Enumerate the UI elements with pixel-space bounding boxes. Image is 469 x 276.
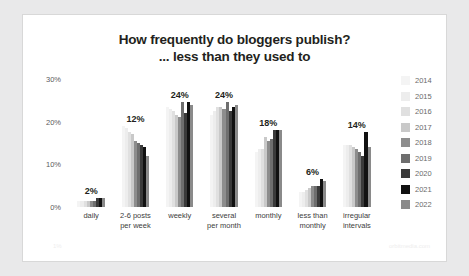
x-axis-category-label: irregularintervals xyxy=(320,211,394,230)
title-line-2: ... less than they used to xyxy=(23,48,446,65)
category-label-line: per week xyxy=(98,221,172,231)
legend-label: 2022 xyxy=(415,200,432,209)
bar-value-label: 24% xyxy=(194,90,254,100)
y-axis-tick: 30% xyxy=(46,75,61,84)
bar-group xyxy=(255,79,282,207)
legend-item[interactable]: 2021 xyxy=(401,182,449,198)
bar-group xyxy=(122,79,149,207)
legend-label: 2019 xyxy=(415,154,432,163)
bar[interactable] xyxy=(368,147,371,207)
legend-swatch-icon xyxy=(401,76,410,85)
bar-value-label: 14% xyxy=(327,120,387,130)
legend-swatch-icon xyxy=(401,138,410,147)
y-axis-tick: 10% xyxy=(46,160,61,169)
legend-swatch-icon xyxy=(401,92,410,101)
bar-value-label: 6% xyxy=(283,167,343,177)
legend-item[interactable]: 2022 xyxy=(401,197,449,213)
legend-label: 2020 xyxy=(415,169,432,178)
bar[interactable] xyxy=(279,130,282,207)
legend-label: 2021 xyxy=(415,185,432,194)
legend-swatch-icon xyxy=(401,169,410,178)
legend-swatch-icon xyxy=(401,123,410,132)
bar[interactable] xyxy=(146,156,149,207)
legend-label: 2015 xyxy=(415,92,432,101)
legend-swatch-icon xyxy=(401,200,410,209)
title-line-1: How frequently do bloggers publish? xyxy=(23,31,446,48)
bar[interactable] xyxy=(235,105,238,207)
bar-stack xyxy=(122,79,149,207)
bar-value-label: 18% xyxy=(238,118,298,128)
bar[interactable] xyxy=(102,198,105,207)
category-label-line: irregular xyxy=(320,211,394,221)
bar-stack xyxy=(299,79,326,207)
bar-group xyxy=(299,79,326,207)
chart-title: How frequently do bloggers publish? ... … xyxy=(23,31,446,65)
category-label-line: per month xyxy=(187,221,261,231)
bar-value-label: 12% xyxy=(105,114,165,124)
watermark-left: 1% xyxy=(53,243,62,249)
legend-item[interactable]: 2014 xyxy=(401,73,449,89)
y-axis: 0%10%20%30% xyxy=(23,71,65,211)
legend-label: 2018 xyxy=(415,138,432,147)
bar-stack xyxy=(343,79,370,207)
legend-swatch-icon xyxy=(401,185,410,194)
legend-item[interactable]: 2019 xyxy=(401,151,449,167)
legend-swatch-icon xyxy=(401,154,410,163)
legend-item[interactable]: 2018 xyxy=(401,135,449,151)
y-axis-tick: 20% xyxy=(46,117,61,126)
legend-swatch-icon xyxy=(401,107,410,116)
legend-label: 2016 xyxy=(415,107,432,116)
legend-label: 2014 xyxy=(415,76,432,85)
legend-item[interactable]: 2020 xyxy=(401,166,449,182)
category-label-line: intervals xyxy=(320,221,394,231)
bar[interactable] xyxy=(190,105,193,207)
legend-item[interactable]: 2015 xyxy=(401,89,449,105)
bar-stack xyxy=(255,79,282,207)
bar[interactable] xyxy=(323,181,326,207)
legend: 201420152016201720182019202020212022 xyxy=(401,73,449,213)
bar-group xyxy=(343,79,370,207)
bar-value-label: 2% xyxy=(61,186,121,196)
plot-area: 2%daily12%2-6 postsper week24%weekly24%s… xyxy=(69,79,379,207)
legend-item[interactable]: 2017 xyxy=(401,120,449,136)
legend-label: 2017 xyxy=(415,123,432,132)
legend-item[interactable]: 2016 xyxy=(401,104,449,120)
chart-card: How frequently do bloggers publish? ... … xyxy=(22,14,447,262)
watermark-right: orbitmedia.com xyxy=(389,243,430,249)
